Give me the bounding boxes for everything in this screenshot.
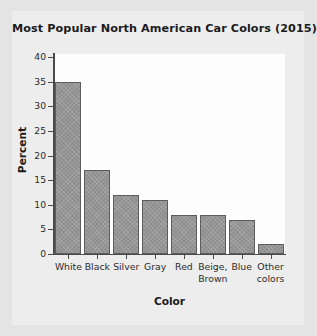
bar [258,244,284,254]
x-axis-tick [68,254,69,259]
x-axis-tick-label: Othercolors [254,261,287,284]
x-axis-tick [184,254,185,259]
x-axis-tick [126,254,127,259]
x-axis-tick [213,254,214,259]
y-axis-line [53,53,55,255]
y-axis-tick [48,131,54,132]
bar [200,215,226,254]
x-axis-tick [97,254,98,259]
y-axis-tick-label: 40 [2,51,46,62]
y-axis-tick-label: 10 [2,199,46,210]
bar [84,170,110,254]
y-axis-tick [48,156,54,157]
x-axis-title: Color [54,295,285,307]
y-axis-tick-label: 35 [2,76,46,87]
y-axis-tick [48,82,54,83]
y-axis-tick-label: 0 [2,248,46,259]
y-axis-tick [48,229,54,230]
y-axis-tick [48,106,54,107]
y-axis-tick-label: 5 [2,223,46,234]
x-axis-tick [155,254,156,259]
chart-figure: Most Popular North American Car Colors (… [0,0,316,336]
chart-title: Most Popular North American Car Colors (… [12,22,304,35]
x-axis-tick [242,254,243,259]
y-axis-tick [48,205,54,206]
bar [113,195,139,254]
bar [55,82,81,254]
x-axis-tick [271,254,272,259]
y-axis-tick [48,254,54,255]
y-axis-title: Percent [16,105,28,195]
bar [229,220,255,254]
y-axis-tick [48,57,54,58]
bar [142,200,168,254]
y-axis-tick [48,180,54,181]
bar [171,215,197,254]
